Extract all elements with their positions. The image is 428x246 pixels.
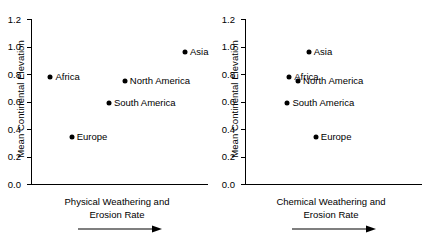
data-point-label: North America	[130, 76, 190, 86]
y-axis-tick-label: 0.6	[0, 97, 21, 107]
data-point-label: Asia	[190, 47, 208, 57]
y-axis-tick-label: 1.2	[209, 15, 235, 25]
increasing-rate-arrow-right	[292, 224, 376, 234]
y-axis-line	[245, 19, 246, 185]
x-axis-caption-right-line1: Chemical Weathering and	[240, 196, 422, 209]
data-point-label: Europe	[77, 133, 108, 143]
y-axis-tick-mark	[241, 19, 245, 20]
data-point-marker	[306, 50, 311, 55]
y-axis-tick-label: 0.4	[0, 125, 21, 135]
y-axis-tick-mark	[27, 19, 31, 20]
y-axis-tick-mark	[27, 47, 31, 48]
data-point-marker	[69, 135, 74, 140]
x-axis-line	[245, 184, 422, 185]
data-point-label: North America	[303, 76, 363, 86]
y-axis-tick-label: 1.0	[209, 42, 235, 52]
y-axis-tick-mark	[27, 184, 31, 185]
two-panel-scatter-figure: Mean Continental Elevation 0.00.20.40.60…	[0, 0, 428, 246]
data-point-marker	[287, 74, 292, 79]
x-axis-caption-left-line1: Physical Weathering and	[26, 196, 208, 209]
y-axis-tick-label: 0.6	[209, 97, 235, 107]
data-point-marker	[106, 100, 111, 105]
y-axis-tick-label: 0.8	[0, 70, 21, 80]
y-axis-line	[31, 19, 32, 185]
x-axis-line	[31, 184, 208, 185]
y-axis-tick-label: 0.2	[209, 152, 235, 162]
y-axis-tick-label: 0.2	[0, 152, 21, 162]
x-axis-caption-left: Physical Weathering and Erosion Rate	[26, 196, 208, 221]
data-point-label: South America	[114, 98, 176, 108]
panel-chemical-weathering: Mean Continental Elevation 0.00.20.40.60…	[214, 0, 428, 246]
y-axis-tick-mark	[241, 184, 245, 185]
x-axis-caption-left-line2: Erosion Rate	[26, 209, 208, 222]
data-point-marker	[122, 78, 127, 83]
data-point-label: South America	[292, 98, 354, 108]
y-axis-tick-label: 1.2	[0, 15, 21, 25]
increasing-rate-arrow-left	[78, 224, 162, 234]
y-axis-tick-mark	[27, 74, 31, 75]
data-point-marker	[182, 50, 187, 55]
data-point-label: Asia	[314, 47, 332, 57]
x-axis-caption-right-line2: Erosion Rate	[240, 209, 422, 222]
data-point-marker	[285, 100, 290, 105]
data-point-marker	[313, 135, 318, 140]
y-axis-tick-mark	[241, 157, 245, 158]
y-axis-tick-label: 1.0	[0, 42, 21, 52]
data-point-marker	[48, 74, 53, 79]
y-axis-tick-label: 0.0	[209, 180, 235, 190]
data-point-label: Africa	[55, 72, 79, 82]
y-axis-tick-mark	[241, 129, 245, 130]
panel-physical-weathering: Mean Continental Elevation 0.00.20.40.60…	[0, 0, 214, 246]
y-axis-tick-mark	[241, 47, 245, 48]
y-axis-tick-mark	[27, 102, 31, 103]
y-axis-tick-label: 0.8	[209, 70, 235, 80]
y-axis-tick-mark	[27, 157, 31, 158]
data-point-marker	[296, 78, 301, 83]
y-axis-tick-label: 0.0	[0, 180, 21, 190]
data-point-label: Europe	[321, 133, 352, 143]
y-axis-tick-mark	[27, 129, 31, 130]
y-axis-tick-mark	[241, 102, 245, 103]
y-axis-tick-label: 0.4	[209, 125, 235, 135]
y-axis-tick-mark	[241, 74, 245, 75]
x-axis-caption-right: Chemical Weathering and Erosion Rate	[240, 196, 422, 221]
